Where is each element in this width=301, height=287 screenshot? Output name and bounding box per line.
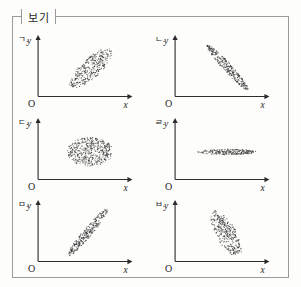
origin-label: O [28, 98, 35, 109]
axes-and-points-0: yxO [14, 28, 151, 111]
x-axis-arrowhead [127, 94, 132, 99]
y-axis-arrowhead [172, 118, 177, 123]
x-axis-arrowhead [264, 259, 269, 264]
y-axis-arrowhead [35, 118, 40, 123]
scatter-panel-5: ㅂ.yxO [151, 193, 288, 276]
origin-label: O [28, 263, 35, 274]
x-axis-label: x [259, 181, 265, 192]
scatter-panel-4: ㅁ.yxO [14, 193, 151, 276]
scatter-panel-1: ㄴ.yxO [151, 28, 288, 111]
scatter-panel-0: ㄱ.yxO [14, 28, 151, 111]
x-axis-label: x [122, 181, 128, 192]
x-axis-arrowhead [127, 177, 132, 182]
y-axis-arrowhead [35, 35, 40, 40]
y-axis-arrowhead [172, 35, 177, 40]
boxi-label: 보기 [21, 9, 56, 24]
y-axis-label: y [163, 118, 169, 129]
y-axis-label: y [26, 200, 32, 211]
point-cloud-5 [210, 210, 241, 255]
origin-label: O [28, 180, 35, 191]
axes-and-points-1: yxO [151, 28, 288, 111]
x-axis-arrowhead [127, 259, 132, 264]
x-axis-arrowhead [264, 177, 269, 182]
point-cloud-2 [67, 136, 112, 166]
scatter-panel-grid: ㄱ.yxOㄴ.yxOㄷ.yxOㄹ.yxOㅁ.yxOㅂ.yxO [14, 28, 287, 276]
scatter-panel-3: ㄹ.yxO [151, 111, 288, 194]
x-axis-arrowhead [264, 94, 269, 99]
x-axis-label: x [122, 264, 128, 275]
x-axis-label: x [259, 99, 265, 110]
y-axis-label: y [163, 200, 169, 211]
point-cloud-0 [69, 48, 112, 88]
y-axis-label: y [26, 118, 32, 129]
x-axis-label: x [259, 264, 265, 275]
y-axis-label: y [163, 35, 169, 46]
y-axis-label: y [26, 35, 32, 46]
point-cloud-3 [197, 148, 256, 155]
axes-and-points-3: yxO [151, 111, 288, 194]
origin-label: O [165, 263, 172, 274]
point-cloud-4 [68, 209, 108, 256]
origin-label: O [165, 180, 172, 191]
y-axis-arrowhead [35, 200, 40, 205]
point-cloud-1 [206, 45, 248, 90]
axes-and-points-2: yxO [14, 111, 151, 194]
origin-label: O [165, 98, 172, 109]
y-axis-arrowhead [172, 200, 177, 205]
axes-and-points-4: yxO [14, 193, 151, 276]
x-axis-label: x [122, 99, 128, 110]
axes-and-points-5: yxO [151, 193, 288, 276]
scatter-panel-2: ㄷ.yxO [14, 111, 151, 194]
